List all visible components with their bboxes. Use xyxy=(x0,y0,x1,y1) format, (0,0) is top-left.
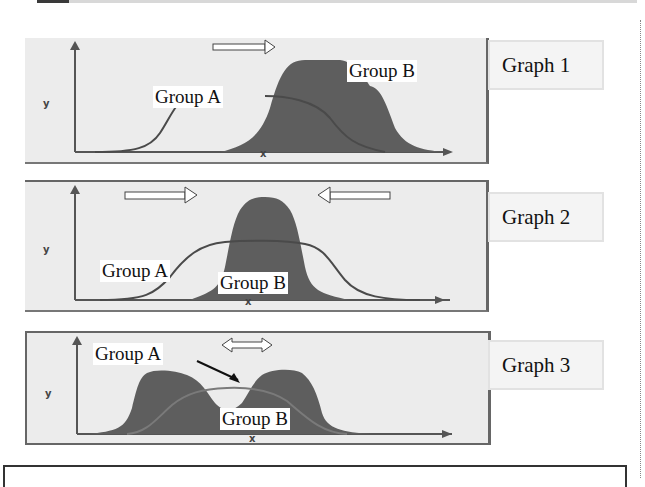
group-b-tag: Group B xyxy=(347,60,417,82)
x-axis-label: x xyxy=(245,296,251,307)
graph-3-panel: y x Group A Group B xyxy=(25,331,491,445)
dotted-divider xyxy=(640,20,641,478)
caption-box xyxy=(3,465,627,487)
group-a-tag: Group A xyxy=(100,260,170,282)
y-axis-label: y xyxy=(43,244,50,255)
x-axis-label: x xyxy=(249,433,255,444)
graph-1-label: Graph 1 xyxy=(488,40,604,90)
group-b-tag: Group B xyxy=(220,408,290,430)
y-axis-label: y xyxy=(43,98,50,109)
graph-1-panel: y x Group A Group B xyxy=(25,38,489,164)
group-a-tag: Group A xyxy=(153,86,223,108)
graph-2-panel: y x Group A Group B xyxy=(25,180,489,312)
y-axis-label: y xyxy=(45,388,52,399)
x-axis-label: x xyxy=(260,148,266,159)
group-b-tag: Group B xyxy=(218,272,288,294)
graph-2-label: Graph 2 xyxy=(488,192,604,242)
top-strip xyxy=(37,0,637,3)
graph-3-label: Graph 3 xyxy=(488,340,604,390)
group-a-tag: Group A xyxy=(93,343,163,365)
graph-1-plot xyxy=(25,38,486,162)
